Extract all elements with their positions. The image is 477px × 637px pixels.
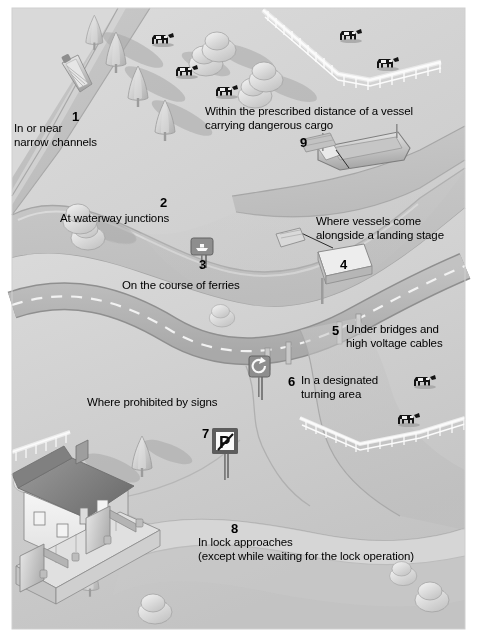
label-6-number: 6 (288, 375, 295, 388)
label-9-number: 9 (300, 136, 307, 149)
label-2-number: 2 (160, 196, 167, 209)
label-4-text: Where vessels come alongside a landing s… (316, 215, 444, 242)
label-1-text: In or near narrow channels (14, 122, 97, 149)
label-3-text: On the course of ferries (122, 279, 240, 293)
label-2-text: At waterway junctions (60, 212, 169, 226)
label-6-text: In a designated turning area (301, 374, 378, 401)
label-5-number: 5 (332, 324, 339, 337)
label-5-text: Under bridges and high voltage cables (346, 323, 443, 350)
label-3-number: 3 (199, 258, 206, 271)
label-9-text: Within the prescribed distance of a vess… (205, 105, 413, 132)
label-8-text: In lock approaches (except while waiting… (198, 536, 414, 563)
label-4-number: 4 (340, 258, 347, 271)
waterway-mooring-diagram: P 1 In or near narrow channels 2 At wate… (0, 0, 477, 637)
label-7-number: 7 (202, 427, 209, 440)
label-8-number: 8 (231, 522, 238, 535)
label-7-text: Where prohibited by signs (87, 396, 217, 410)
